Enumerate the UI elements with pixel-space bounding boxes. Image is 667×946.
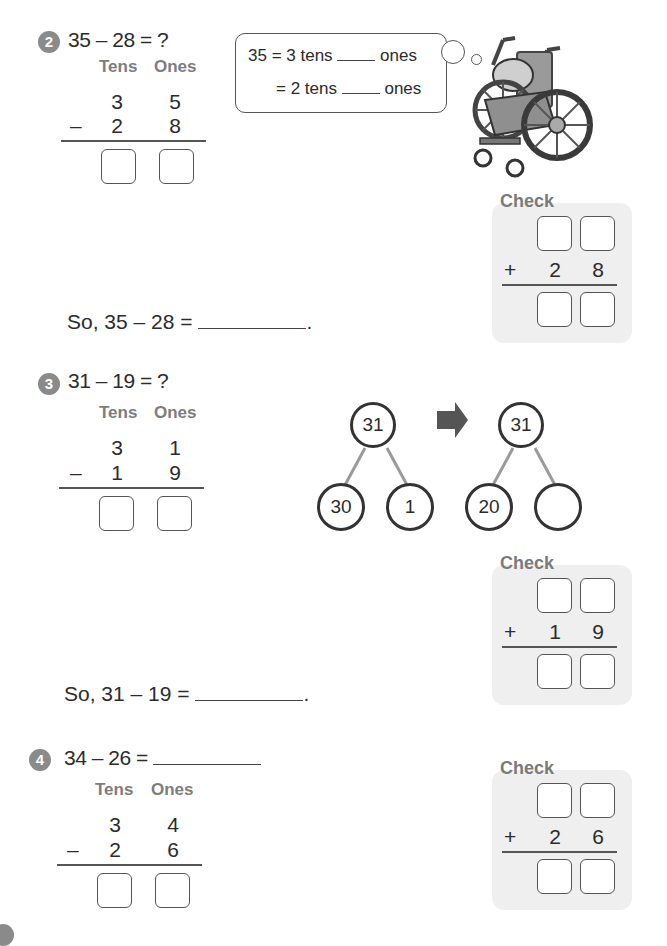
- top-tens-digit: 3: [107, 90, 127, 114]
- check-ones-digit: 8: [588, 258, 608, 282]
- answer-tens-box[interactable]: [99, 496, 134, 531]
- answer-tens-box[interactable]: [101, 149, 136, 184]
- bond1-part-left: 30: [317, 483, 365, 531]
- hint-line1-blank[interactable]: [337, 60, 375, 61]
- next-question-badge-partial: [0, 924, 14, 946]
- question-number-badge: 2: [38, 31, 60, 53]
- hint-line2-suffix: ones: [384, 79, 421, 98]
- ones-header: Ones: [154, 57, 197, 77]
- check-sum-ones-box[interactable]: [580, 859, 615, 894]
- bond2-whole: 31: [498, 402, 544, 448]
- answer-ones-box[interactable]: [155, 873, 190, 908]
- check-sum-tens-box[interactable]: [537, 859, 572, 894]
- so-statement-prefix: So, 31 – 19 =: [64, 682, 190, 705]
- check-title: Check: [500, 191, 554, 212]
- check-sum-tens-box[interactable]: [537, 654, 572, 689]
- check-tens-digit: 1: [545, 620, 565, 644]
- check-top-tens-box[interactable]: [537, 216, 572, 251]
- hint-thought-bubble: 35 = 3 tens ones = 2 tens ones: [235, 33, 447, 113]
- problem-equation: 31 – 19 = ?: [68, 369, 168, 393]
- problem-equation-text: 34 – 26 =: [64, 746, 148, 769]
- check-ones-digit: 6: [588, 825, 608, 849]
- bottom-ones-digit: 9: [165, 461, 185, 485]
- question-number-badge: 3: [38, 373, 60, 395]
- so-statement-period: .: [306, 310, 312, 333]
- top-tens-digit: 3: [107, 436, 127, 460]
- answer-tens-box[interactable]: [97, 873, 132, 908]
- tens-header: Tens: [99, 57, 137, 77]
- check-ones-digit: 9: [588, 620, 608, 644]
- so-statement: So, 31 – 19 = .: [64, 682, 309, 706]
- hint-line2-prefix: = 2 tens: [276, 79, 337, 98]
- minus-sign: –: [67, 838, 79, 862]
- check-tens-digit: 2: [545, 258, 565, 282]
- bottom-ones-digit: 6: [163, 838, 183, 862]
- bottom-tens-digit: 2: [105, 838, 125, 862]
- so-statement-period: .: [303, 682, 309, 705]
- hint-line1-suffix: ones: [380, 46, 417, 65]
- bond1-whole: 31: [350, 402, 396, 448]
- bottom-tens-digit: 2: [107, 114, 127, 138]
- bond1-part-right: 1: [386, 483, 434, 531]
- answer-rule: [59, 487, 204, 489]
- bottom-tens-digit: 1: [107, 461, 127, 485]
- tens-header: Tens: [95, 780, 133, 800]
- check-top-ones-box[interactable]: [580, 216, 615, 251]
- check-title: Check: [500, 758, 554, 779]
- answer-ones-box[interactable]: [159, 149, 194, 184]
- so-statement-prefix: So, 35 – 28 =: [67, 310, 193, 333]
- tens-header: Tens: [99, 403, 137, 423]
- top-ones-digit: 4: [163, 813, 183, 837]
- answer-ones-box[interactable]: [157, 496, 192, 531]
- bond2-part-right-empty[interactable]: [534, 483, 582, 531]
- question-number-badge: 4: [29, 749, 51, 771]
- check-top-tens-box[interactable]: [537, 783, 572, 818]
- check-sum-ones-box[interactable]: [580, 654, 615, 689]
- check-sum-tens-box[interactable]: [537, 292, 572, 327]
- problem-equation: 34 – 26 =: [64, 746, 261, 770]
- plus-sign: +: [504, 825, 516, 849]
- hedgehog-wheelchair-illustration: [465, 30, 595, 180]
- plus-sign: +: [504, 620, 516, 644]
- answer-rule: [57, 864, 202, 866]
- plus-sign: +: [504, 258, 516, 282]
- check-panel: Check + 2 8: [492, 203, 632, 343]
- minus-sign: –: [70, 461, 82, 485]
- answer-rule: [61, 140, 206, 142]
- minus-sign: –: [70, 114, 82, 138]
- check-panel: Check + 2 6: [492, 770, 632, 910]
- hint-line1-prefix: 35 = 3 tens: [248, 46, 333, 65]
- thought-bubble-circle-large: [441, 40, 465, 64]
- top-ones-digit: 1: [165, 436, 185, 460]
- check-rule: [502, 284, 617, 286]
- equation-answer-blank[interactable]: [153, 764, 261, 765]
- bond2-part-left: 20: [465, 483, 513, 531]
- hint-line2-blank[interactable]: [342, 93, 380, 94]
- problem-equation: 35 – 28 = ?: [68, 28, 168, 52]
- check-sum-ones-box[interactable]: [580, 292, 615, 327]
- so-answer-blank[interactable]: [198, 328, 306, 329]
- check-top-ones-box[interactable]: [580, 578, 615, 613]
- check-tens-digit: 2: [545, 825, 565, 849]
- so-answer-blank[interactable]: [195, 700, 303, 701]
- so-statement: So, 35 – 28 = .: [67, 310, 312, 334]
- check-panel: Check + 1 9: [492, 565, 632, 705]
- arrow-right-icon: [437, 402, 468, 438]
- check-rule: [502, 851, 617, 853]
- ones-header: Ones: [151, 780, 194, 800]
- top-tens-digit: 3: [105, 813, 125, 837]
- check-top-ones-box[interactable]: [580, 783, 615, 818]
- check-top-tens-box[interactable]: [537, 578, 572, 613]
- check-title: Check: [500, 553, 554, 574]
- bottom-ones-digit: 8: [165, 114, 185, 138]
- ones-header: Ones: [154, 403, 197, 423]
- top-ones-digit: 5: [165, 90, 185, 114]
- check-rule: [502, 646, 617, 648]
